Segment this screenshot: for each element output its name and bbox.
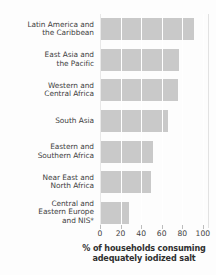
category-axis-labels: Latin America andthe CaribbeanEast Asia … — [0, 14, 97, 228]
bar — [100, 110, 168, 132]
x-axis-title-line-2: adequately iodized salt — [72, 253, 216, 263]
category-label-line: South Asia — [0, 117, 94, 126]
bar — [100, 18, 194, 40]
category-label: Near East andNorth Africa — [0, 174, 94, 191]
bar — [100, 79, 178, 101]
category-label-line: North Africa — [0, 182, 94, 191]
category-label: Central andEastern Europeand NIS* — [0, 200, 94, 226]
bar-row — [100, 202, 208, 224]
gridline — [121, 14, 122, 228]
category-label-line: the Pacific — [0, 60, 94, 69]
bar — [100, 141, 153, 163]
gridline — [100, 14, 101, 228]
bar — [100, 171, 151, 193]
gridline — [203, 14, 204, 228]
gridline — [162, 14, 163, 228]
tick-label: 40 — [136, 229, 146, 238]
tick-label: 60 — [157, 229, 167, 238]
category-label: Latin America andthe Caribbean — [0, 21, 94, 38]
gridline — [141, 14, 142, 228]
category-label: Eastern andSouthern Africa — [0, 143, 94, 160]
category-label: Western andCentral Africa — [0, 82, 94, 99]
bar — [100, 49, 179, 71]
plot-area — [100, 14, 208, 228]
bar-row — [100, 49, 208, 71]
bar-row — [100, 110, 208, 132]
tick-label: 0 — [98, 229, 103, 238]
bar-row — [100, 141, 208, 163]
bar-row — [100, 79, 208, 101]
x-axis-title: % of households consuming adequately iod… — [72, 243, 216, 263]
x-axis-tick-labels: 020406080100 — [100, 229, 208, 241]
bar — [100, 202, 129, 224]
category-label-line: Southern Africa — [0, 152, 94, 161]
tick-label: 80 — [177, 229, 187, 238]
bar-row — [100, 18, 208, 40]
tick-label: 20 — [116, 229, 126, 238]
category-label: South Asia — [0, 117, 94, 126]
category-label-line: the Caribbean — [0, 29, 94, 38]
category-label-line: and NIS* — [0, 217, 94, 226]
x-axis-title-line-1: % of households consuming — [82, 243, 205, 253]
gridline — [182, 14, 183, 228]
bar-row — [100, 171, 208, 193]
category-label: East Asia andthe Pacific — [0, 51, 94, 68]
bar-chart-figure: Latin America andthe CaribbeanEast Asia … — [0, 0, 216, 275]
tick-label: 100 — [196, 229, 211, 238]
gridline-outer — [208, 14, 209, 228]
category-label-line: Central Africa — [0, 90, 94, 99]
